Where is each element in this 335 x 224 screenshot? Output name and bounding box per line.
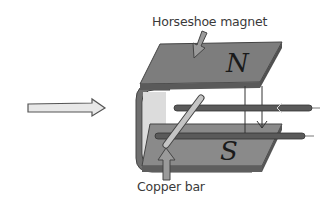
north-pole-label: N bbox=[225, 48, 250, 78]
motion-arrow-icon bbox=[28, 99, 105, 116]
south-pole-label: S bbox=[220, 136, 238, 166]
bar-label: Copper bar bbox=[137, 179, 205, 194]
magnet-label: Horseshoe magnet bbox=[152, 14, 267, 29]
lower-rail bbox=[155, 133, 314, 139]
